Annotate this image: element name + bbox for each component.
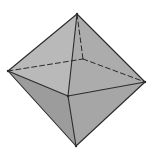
octahedron-diagram <box>0 0 155 155</box>
vertex-front <box>67 95 69 97</box>
vertex-bottom <box>75 145 77 147</box>
vertex-left <box>7 70 9 72</box>
vertex-top <box>76 13 78 15</box>
vertex-right <box>144 81 146 83</box>
